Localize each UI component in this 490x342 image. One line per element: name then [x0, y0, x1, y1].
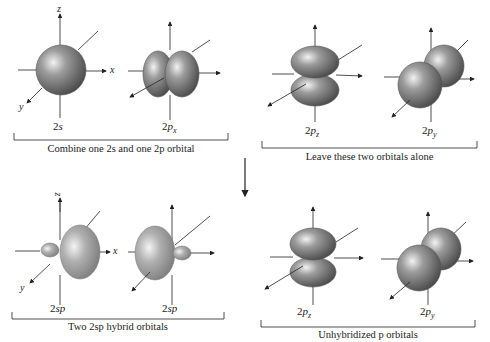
orbital-label-2pz: 2pz	[305, 124, 319, 139]
bracket-bottom-left	[12, 312, 224, 319]
orbital-2sp-left	[15, 198, 110, 305]
orbital-2s	[18, 14, 106, 118]
orbital-label-2sp: 2sp	[162, 302, 177, 314]
orbital-label-2px: 2px	[162, 120, 177, 135]
orbital-label-2s: 2s	[53, 120, 63, 132]
axis-label-z: z	[57, 3, 61, 14]
axis-label-z: z	[53, 193, 64, 197]
caption-combine: Combine one 2s and one 2p orbital	[14, 143, 228, 154]
orbital-2pz-top	[268, 25, 362, 122]
orbital-label-2py: 2py	[420, 305, 435, 320]
bracket-bottom-right	[261, 320, 475, 327]
orbital-2py-bottom	[381, 212, 473, 305]
axis-label-y: y	[20, 282, 24, 293]
caption-unhybridized: Unhybridized p orbitals	[261, 329, 475, 340]
orbital-2py-top	[384, 28, 474, 122]
caption-hybrid: Two 2sp hybrid orbitals	[12, 321, 224, 332]
orbital-diagram	[0, 0, 490, 342]
orbital-label-2py: 2py	[422, 124, 437, 139]
orbital-label-2pz: 2pz	[297, 305, 311, 320]
axis-label-x: x	[110, 64, 114, 75]
axis-label-y: y	[19, 101, 23, 112]
bracket-top-left	[14, 133, 228, 140]
orbital-2pz-bottom	[265, 207, 363, 305]
caption-leave-alone: Leave these two orbitals alone	[262, 151, 477, 162]
orbital-2sp-right	[128, 205, 214, 305]
axis-label-x: x	[113, 245, 117, 256]
orbital-label-2sp: 2sp	[50, 302, 65, 314]
bracket-top-right	[262, 141, 477, 148]
orbital-2px	[128, 22, 220, 120]
